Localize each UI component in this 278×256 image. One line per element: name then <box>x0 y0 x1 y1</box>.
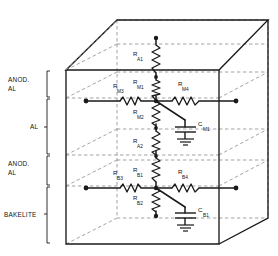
junction-dot-a2-b1 <box>154 154 158 158</box>
resistor-r-b4-symbol <box>172 184 199 192</box>
svg-text:B3: B3 <box>117 176 123 181</box>
label-r-a1: R A1 <box>133 50 143 62</box>
resistor-r-m3-symbol <box>120 97 141 105</box>
svg-text:R: R <box>133 50 138 57</box>
terminal-dot-mid-right <box>234 99 239 104</box>
svg-text:B2: B2 <box>137 201 143 206</box>
label-r-b2: R B2 <box>133 194 143 206</box>
bracket-bakelite <box>44 187 50 243</box>
ground-symbol-c-b1 <box>177 225 194 231</box>
capacitor-c-b1-symbol <box>175 213 196 225</box>
label-c-b1: C B1 <box>198 206 209 218</box>
circuit-wires <box>86 38 236 216</box>
layer-label-anod-al-bottom-line1: ANOD. <box>8 160 30 167</box>
junction-dot-bot-node <box>154 186 158 190</box>
svg-text:R: R <box>133 194 138 201</box>
label-r-b4: R B4 <box>178 168 188 180</box>
label-r-m4: R M4 <box>178 80 189 92</box>
svg-text:M3: M3 <box>117 89 124 94</box>
label-r-m3: R M3 <box>113 82 124 94</box>
junction-dot-mid-node <box>154 99 158 103</box>
resistor-r-b3-symbol <box>120 184 141 192</box>
svg-text:R: R <box>133 108 138 115</box>
terminal-dot-mid-left <box>84 99 89 104</box>
svg-text:M1: M1 <box>137 85 144 90</box>
svg-text:A1: A1 <box>137 57 143 62</box>
layer-label-anod-al-top-line2: AL <box>8 85 17 92</box>
bracket-al <box>44 99 50 154</box>
resistor-r-a1-symbol <box>152 45 160 73</box>
svg-text:B4: B4 <box>182 175 188 180</box>
svg-text:C: C <box>198 206 203 213</box>
layer-division-planes <box>66 44 268 186</box>
ground-symbol-c-m1 <box>177 139 194 145</box>
layer-bracket-group <box>44 71 50 243</box>
label-r-a2: R A2 <box>133 137 143 149</box>
layered-block-circuit-diagram: ANOD. AL AL ANOD. AL BAKELITE <box>0 0 278 256</box>
svg-text:R: R <box>178 80 183 87</box>
label-r-m2: R M2 <box>133 108 144 120</box>
resistor-r-b1-symbol <box>152 158 160 182</box>
layer-label-bakelite: BAKELITE <box>4 211 37 218</box>
box-hidden-edges <box>66 20 268 244</box>
svg-text:M1: M1 <box>203 127 210 132</box>
svg-text:R: R <box>133 78 138 85</box>
terminal-dot-bot-left <box>84 186 89 191</box>
svg-text:M2: M2 <box>137 115 144 120</box>
layer-label-al: AL <box>30 123 39 130</box>
junction-dot-m2-a2 <box>154 126 158 130</box>
label-c-m1: C M1 <box>198 120 210 132</box>
svg-text:R: R <box>133 137 138 144</box>
terminal-dot-bot-right <box>234 186 239 191</box>
label-r-m1: R M1 <box>133 78 144 90</box>
svg-text:R: R <box>113 169 118 176</box>
svg-text:R: R <box>113 82 118 89</box>
resistor-r-b2-symbol <box>152 188 160 212</box>
box-visible-edges <box>66 20 268 244</box>
bracket-anod-al-top <box>47 71 50 97</box>
terminal-dot-top <box>154 36 158 40</box>
resistor-r-m2-symbol <box>152 101 160 126</box>
svg-text:C: C <box>198 120 203 127</box>
junction-dot-a1-m1 <box>154 75 158 79</box>
svg-text:R: R <box>133 166 138 173</box>
bracket-anod-al-bottom <box>47 156 50 185</box>
label-r-b1: R B1 <box>133 166 143 178</box>
svg-text:B1: B1 <box>137 173 143 178</box>
svg-text:A2: A2 <box>137 144 143 149</box>
diagram-canvas: ANOD. AL AL ANOD. AL BAKELITE <box>0 0 278 256</box>
svg-text:M4: M4 <box>182 87 189 92</box>
terminal-dot-bottom <box>154 214 158 218</box>
label-r-b3: R B3 <box>113 169 123 181</box>
layer-label-anod-al-bottom-line2: AL <box>8 169 17 176</box>
svg-text:R: R <box>178 168 183 175</box>
layer-label-anod-al-top-line1: ANOD. <box>8 76 30 83</box>
svg-text:B1: B1 <box>203 213 209 218</box>
